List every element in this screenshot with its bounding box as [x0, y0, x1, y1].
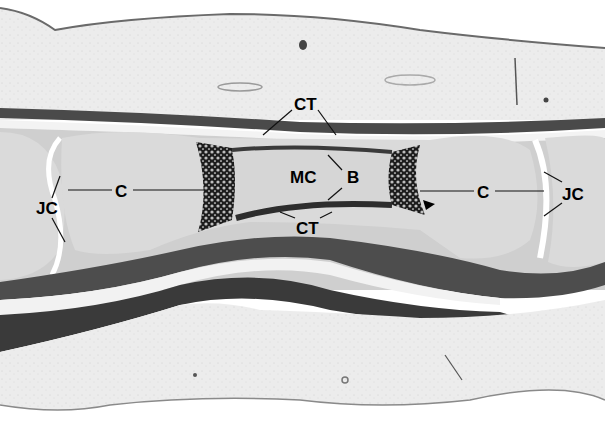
label-ct-bottom: CT [296, 220, 319, 237]
label-c-left: C [115, 183, 127, 200]
label-mc: MC [290, 169, 316, 186]
label-ct-top: CT [294, 96, 317, 113]
label-jc-left: JC [36, 200, 58, 217]
tissue-section-image [0, 0, 605, 427]
label-jc-right: JC [562, 186, 584, 203]
label-c-right: C [477, 184, 489, 201]
micrograph-figure: CT MC B CT C C JC JC [0, 0, 605, 427]
label-b: B [347, 169, 359, 186]
